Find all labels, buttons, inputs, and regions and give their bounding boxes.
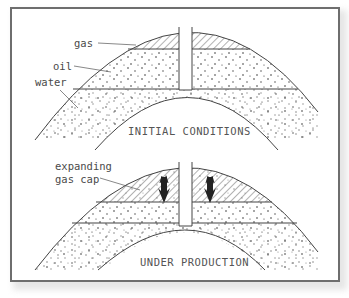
panel-under-production: expanding gas cap UNDER PRODUCTION: [30, 160, 330, 275]
label-oil: oil: [53, 60, 72, 72]
leader-gas: [98, 43, 136, 45]
well-bore: [179, 27, 192, 90]
label-gas: gas: [74, 37, 93, 49]
panel-initial-conditions: gas oil water INITIAL CONDITIONS: [30, 20, 330, 150]
label-water: water: [35, 76, 67, 88]
label-gas-cap: gas cap: [55, 173, 99, 185]
caption-initial-conditions: INITIAL CONDITIONS: [128, 125, 251, 137]
well-bore-production: [179, 162, 192, 226]
reservoir-diagram: gas oil water INITIAL CONDITIONS: [0, 0, 349, 298]
label-expanding: expanding: [55, 160, 112, 172]
caption-under-production: UNDER PRODUCTION: [140, 256, 249, 268]
